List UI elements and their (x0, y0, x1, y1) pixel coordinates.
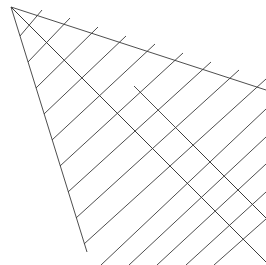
line-drawing-figure (0, 0, 266, 265)
figure-canvas (0, 0, 266, 265)
